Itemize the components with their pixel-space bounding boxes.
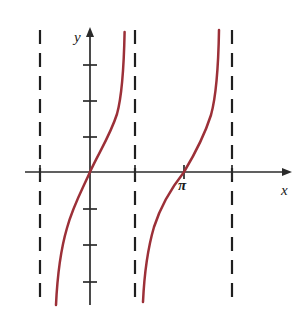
curve-group	[56, 30, 219, 305]
x-axis-label: x	[281, 183, 288, 198]
plot-canvas	[0, 0, 304, 314]
pi-tick-label: π	[178, 178, 186, 193]
y-axis-label: y	[74, 30, 81, 45]
tangent-branch-middle	[143, 30, 219, 302]
tangent-function-figure: y x π	[0, 0, 304, 314]
asymptote-group	[40, 30, 232, 301]
axes-group	[25, 36, 283, 305]
